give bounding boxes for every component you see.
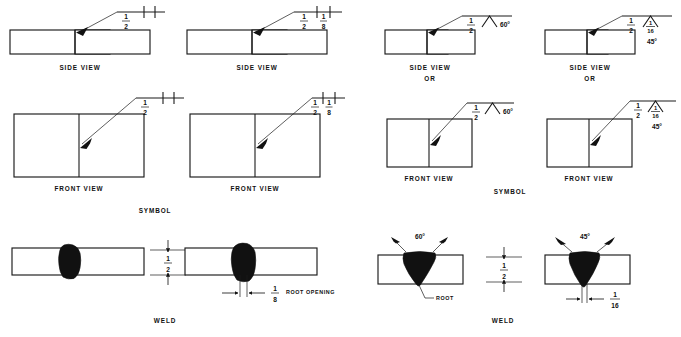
col4-front-size-numerator: 1 [636, 102, 640, 109]
weld-left-root-numerator: 1 [273, 285, 277, 292]
weld-right-caption: WELD [492, 317, 514, 324]
col4-side-view-group: 1 2 1 16 45° SIDE VIEW OR [545, 16, 672, 82]
col1-side-plate-right [75, 30, 150, 54]
col4-root-opening-denominator: 16 [647, 28, 654, 34]
symbol-caption-left: SYMBOL [139, 207, 172, 214]
col3-front-size-denominator: 2 [474, 114, 478, 121]
col3-or-label: OR [424, 75, 435, 82]
col2-size-numerator: 1 [302, 13, 306, 20]
col1-front-view-label: FRONT VIEW [54, 185, 103, 192]
weld-right-angle-45-label: 45° [580, 233, 590, 240]
col3-side-view-label: SIDE VIEW [409, 64, 450, 71]
weld-left-root-denominator: 8 [273, 296, 277, 303]
weld-right-group: 60° ROOT 1 2 45° 1 16 WELD [378, 233, 630, 324]
weld-left-group: 1 2 1 8 ROOT OPENING WELD [12, 240, 335, 324]
col4-front-size-denominator: 2 [636, 112, 640, 119]
col2-side-view-group: 1 2 1 8 SIDE VIEW [187, 6, 342, 71]
col3-groove-angle: 60° [500, 21, 510, 28]
weld-right-angle-60-arrow-right-icon [439, 237, 448, 244]
weld-right-thickness-numerator: 1 [502, 262, 506, 269]
col2-root-opening-denominator: 8 [322, 23, 326, 30]
weld-left-caption: WELD [154, 317, 176, 324]
col1-size-numerator: 1 [124, 13, 128, 20]
col1-side-view-label: SIDE VIEW [59, 64, 100, 71]
weld-right-root-label: ROOT [436, 295, 454, 301]
col3-size-numerator: 1 [469, 17, 473, 24]
weld-left-thickness-numerator: 1 [166, 255, 170, 262]
col2-root-opening-numerator: 1 [322, 13, 326, 20]
col4-front-groove-angle: 45° [652, 123, 662, 130]
col4-front-root-numerator: 1 [654, 105, 658, 111]
col2-size-denominator: 2 [302, 23, 306, 30]
col4-front-root-denominator: 16 [652, 113, 659, 119]
col4-front-view-label: FRONT VIEW [564, 175, 613, 182]
col4-groove-angle: 45° [647, 38, 657, 45]
weld-left-root-opening-label: ROOT OPENING [286, 289, 335, 295]
weld-right-angle-60-arrow-left-icon [391, 237, 400, 244]
weld-left-bead-closed [59, 244, 81, 279]
weld-right-root-denominator: 16 [611, 302, 619, 309]
col4-or-label: OR [584, 75, 595, 82]
col4-size-numerator: 1 [629, 17, 633, 24]
weld-left-thickness-denominator: 2 [166, 266, 170, 273]
col3-front-groove-angle: 60° [503, 108, 513, 115]
col4-root-opening-numerator: 1 [649, 20, 653, 26]
col1-front-view-group: 1 2 FRONT VIEW [14, 92, 184, 192]
col3-side-view-group: 1 2 60° SIDE VIEW OR [385, 16, 512, 82]
col1-front-size-denominator: 2 [143, 109, 147, 116]
weld-right-root-leader [419, 285, 425, 298]
weld-right-thickness-denominator: 2 [502, 273, 506, 280]
col2-front-size-denominator: 2 [313, 109, 317, 116]
col2-front-size-numerator: 1 [313, 99, 317, 106]
weld-right-angle-60-label: 60° [415, 233, 425, 240]
col3-front-view-group: 1 2 60° FRONT VIEW [387, 103, 514, 182]
col1-front-size-numerator: 1 [143, 99, 147, 106]
weld-left-bead-open [231, 243, 256, 282]
col1-size-denominator: 2 [124, 23, 128, 30]
diagram-canvas: 1 2 SIDE VIEW 1 2 1 8 SIDE VIEW 1 2 [0, 0, 681, 337]
col3-v-groove-symbol-icon [482, 16, 497, 27]
weld-right-root-numerator: 1 [613, 291, 617, 298]
col2-side-view-label: SIDE VIEW [236, 64, 277, 71]
symbol-caption-right: SYMBOL [494, 188, 527, 195]
col2-front-view-group: 1 2 1 8 FRONT VIEW [190, 92, 345, 192]
col3-front-size-numerator: 1 [474, 104, 478, 111]
weld-right-angle-45-arrow-right-icon [604, 237, 615, 245]
col4-side-view-label: SIDE VIEW [569, 64, 610, 71]
col2-front-root-numerator: 1 [327, 99, 331, 106]
welding-symbol-diagram: 1 2 SIDE VIEW 1 2 1 8 SIDE VIEW 1 2 [0, 0, 681, 337]
col1-side-view-group: 1 2 SIDE VIEW [10, 6, 165, 71]
col2-front-root-denominator: 8 [327, 109, 331, 116]
col2-side-plate-right [252, 30, 327, 54]
col2-front-view-label: FRONT VIEW [230, 185, 279, 192]
weld-right-angle-45-arrow-left-icon [555, 237, 566, 245]
col3-front-v-groove-symbol-icon [485, 103, 500, 114]
col3-front-view-label: FRONT VIEW [404, 175, 453, 182]
col4-size-denominator: 2 [629, 27, 633, 34]
col4-front-view-group: 1 2 1 16 45° FRONT VIEW [547, 101, 676, 182]
col3-size-denominator: 2 [469, 27, 473, 34]
